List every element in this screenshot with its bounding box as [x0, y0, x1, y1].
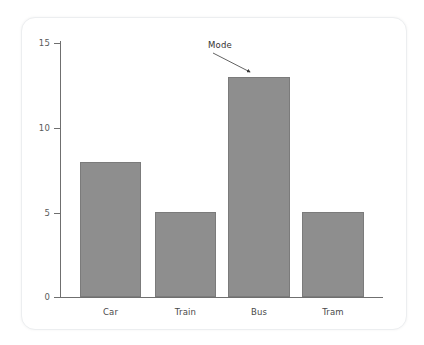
bar-tram[interactable] [302, 212, 364, 297]
bar-car[interactable] [80, 162, 141, 297]
x-tick-label-train: Train [155, 308, 216, 317]
x-tick-label-bus: Bus [228, 308, 290, 317]
y-tick-15 [54, 43, 60, 44]
plot-area: 0 5 10 15 Car Train Bus Tram [0, 0, 424, 345]
chart-figure: 0 5 10 15 Car Train Bus Tram [0, 0, 424, 345]
bar-bus[interactable] [228, 77, 290, 297]
x-tick-label-tram: Tram [302, 308, 364, 317]
y-tick-label-10: 10 [20, 124, 50, 133]
mode-annotation-label: Mode [208, 41, 232, 50]
y-tick-label-10-wrap: 10 [20, 128, 50, 129]
bar-train[interactable] [155, 212, 216, 297]
x-axis-line [60, 297, 383, 298]
y-tick-label-0: 0 [20, 293, 50, 302]
y-tick-label-15: 15 [20, 39, 50, 48]
y-tick-10 [54, 128, 60, 129]
y-tick-label-0-wrap: 0 [20, 297, 50, 298]
y-axis-line [60, 41, 61, 298]
y-tick-5 [54, 213, 60, 214]
x-tick-label-car: Car [80, 308, 141, 317]
y-tick-label-15-wrap: 15 [20, 43, 50, 44]
y-tick-0 [54, 297, 60, 298]
y-tick-label-5: 5 [20, 209, 50, 218]
y-tick-label-5-wrap: 5 [20, 213, 50, 214]
